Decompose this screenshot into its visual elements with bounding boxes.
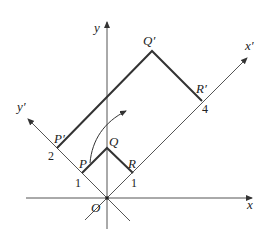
point-r-prime-label: R′ xyxy=(195,81,207,96)
point-p-prime-label: P′ xyxy=(53,131,65,146)
rotation-diagram: y x x′ y′ O P Q R P′ Q′ R′ 1 2 1 4 xyxy=(0,0,269,231)
point-q-label: Q xyxy=(109,134,119,149)
tick-x-prime-4: 4 xyxy=(202,102,208,116)
origin-point xyxy=(105,196,109,200)
tick-y-prime-1: 1 xyxy=(75,176,81,190)
rotation-arrow-icon xyxy=(90,111,126,163)
origin-label: O xyxy=(91,200,101,215)
point-q-prime-label: Q′ xyxy=(143,33,155,48)
tick-x-prime-1: 1 xyxy=(131,176,137,190)
y-prime-axis-label: y′ xyxy=(15,99,26,114)
x-prime-axis-label: x′ xyxy=(244,38,254,53)
point-p-label: P xyxy=(78,156,87,171)
y-axis-label: y xyxy=(92,20,100,35)
point-r-label: R xyxy=(127,156,136,171)
transformed-rectangle xyxy=(57,51,202,148)
x-axis-label: x xyxy=(246,197,253,212)
tick-y-prime-2: 2 xyxy=(48,149,54,163)
